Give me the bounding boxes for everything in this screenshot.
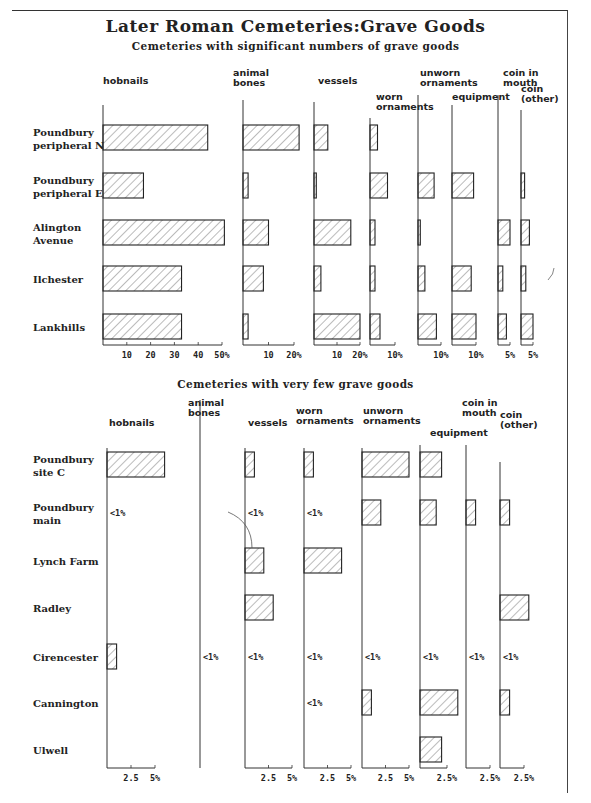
series-animal-bones: animalbones1020% xyxy=(233,67,303,360)
tick-label: 20% xyxy=(286,350,302,360)
row-label: Poundburysite C xyxy=(33,454,95,478)
series-vessels: vessels1020% xyxy=(314,75,369,360)
bar xyxy=(418,220,420,245)
less-than-label: <1% xyxy=(307,508,323,518)
bar xyxy=(452,314,476,339)
less-than-label: <1% xyxy=(503,652,519,662)
row-label: Ulwell xyxy=(33,745,68,756)
column-label: equipment xyxy=(430,427,488,438)
bar xyxy=(243,125,299,150)
bar xyxy=(420,690,458,715)
bar xyxy=(370,220,375,245)
column-label: coin inmouth xyxy=(462,397,498,418)
tick-label: 2.5 xyxy=(123,773,138,783)
bar xyxy=(103,314,182,339)
tick-label: 50% xyxy=(214,350,230,360)
row-label: Poundburyperipheral E xyxy=(33,175,103,199)
tick-label: 2.5% xyxy=(437,773,458,783)
bar xyxy=(500,595,529,620)
column-label: vessels xyxy=(318,75,358,86)
column-label: animalbones xyxy=(188,397,224,418)
column-label: coin(other) xyxy=(500,409,538,430)
bar xyxy=(420,737,442,762)
bar xyxy=(314,314,360,339)
series-animal-bones: animalbones<1% xyxy=(188,397,224,768)
series-coin-other-: coin(other)2.5%<1% xyxy=(500,409,538,783)
bar xyxy=(314,125,328,150)
series-equipment: equipment2.5%<1% xyxy=(420,427,488,783)
bar xyxy=(420,500,436,525)
column-label: unwornornaments xyxy=(363,405,421,426)
column-label: equipment xyxy=(452,91,510,102)
tick-label: 10% xyxy=(433,350,449,360)
tick-label: 2.5 xyxy=(378,773,393,783)
bar xyxy=(370,173,388,198)
bar xyxy=(498,220,510,245)
row-label: Ilchester xyxy=(33,274,84,285)
bar xyxy=(362,452,409,477)
bar xyxy=(243,266,263,291)
less-than-label: <1% xyxy=(110,508,126,518)
row-label: Radley xyxy=(33,603,72,614)
tick-label: 10 xyxy=(122,350,132,360)
bar xyxy=(370,125,378,150)
less-than-label: <1% xyxy=(307,698,323,708)
series-worn-ornaments: wornornaments2.55%<1%<1%<1% xyxy=(296,405,357,783)
bar xyxy=(466,500,476,525)
bar xyxy=(314,220,351,245)
column-label: wornornaments xyxy=(296,405,354,426)
bar xyxy=(243,173,248,198)
tick-label: 20 xyxy=(145,350,155,360)
column-label: hobnails xyxy=(109,417,155,428)
bar xyxy=(103,173,143,198)
row-label: Poundburyperipheral N xyxy=(33,127,104,151)
series-hobnails: hobnails1020304050% xyxy=(103,75,231,360)
bar xyxy=(103,125,208,150)
less-than-label: <1% xyxy=(365,652,381,662)
tick-label: 2.5 xyxy=(320,773,335,783)
series-unworn-ornaments: unwornornaments2.55%<1% xyxy=(362,405,421,783)
bar xyxy=(521,266,526,291)
tick-label: 10% xyxy=(387,350,403,360)
column-label: unwornornaments xyxy=(420,67,478,88)
tick-label: 10 xyxy=(332,350,342,360)
column-label: vessels xyxy=(248,417,288,428)
less-than-label: <1% xyxy=(469,652,485,662)
tick-label: 20% xyxy=(352,350,368,360)
bar xyxy=(370,314,380,339)
bar xyxy=(498,314,506,339)
bar xyxy=(243,220,269,245)
bar xyxy=(245,595,273,620)
bar xyxy=(420,452,442,477)
column-label: animalbones xyxy=(233,67,269,88)
less-than-label: <1% xyxy=(248,652,264,662)
bar xyxy=(107,452,165,477)
bar xyxy=(103,266,182,291)
bar xyxy=(314,266,321,291)
bar xyxy=(452,266,471,291)
top-panel: Poundburyperipheral NPoundburyperipheral… xyxy=(32,67,559,360)
series-vessels: vessels2.55%<1%<1% xyxy=(245,417,298,783)
bar xyxy=(245,452,254,477)
tick-label: 5% xyxy=(505,350,516,360)
tick-label: 10% xyxy=(468,350,484,360)
tick-label: 2.5% xyxy=(514,773,535,783)
column-label: wornornaments xyxy=(376,91,434,112)
tick-label: 5% xyxy=(346,773,357,783)
bar xyxy=(103,220,224,245)
less-than-label: <1% xyxy=(307,652,323,662)
bar xyxy=(418,266,425,291)
bar xyxy=(304,548,342,573)
bar xyxy=(418,314,436,339)
bar xyxy=(370,266,375,291)
tick-label: 2.5% xyxy=(480,773,501,783)
bottom-panel: Poundburysite CPoundburymainLynch FarmRa… xyxy=(33,397,538,783)
less-than-label: <1% xyxy=(248,508,264,518)
bar xyxy=(521,220,529,245)
bar xyxy=(245,548,264,573)
row-label: Poundburymain xyxy=(33,502,95,526)
stray-mark xyxy=(548,268,554,280)
series-coin-other-: coin(other)5% xyxy=(521,83,559,360)
bar xyxy=(500,500,510,525)
row-label: Cannington xyxy=(33,698,99,709)
